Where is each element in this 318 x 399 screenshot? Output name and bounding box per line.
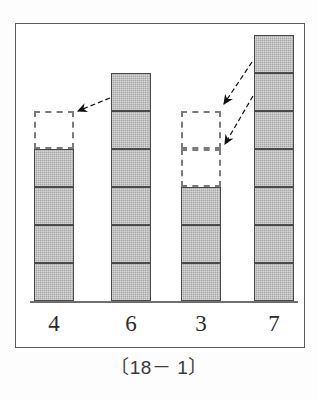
bar-1-dashed-segment-1 xyxy=(34,111,74,149)
bar-3-filled-segment-2 xyxy=(181,225,221,263)
bar-3-filled-segment-3 xyxy=(181,187,221,225)
bar-4-filled-segment-6 xyxy=(254,73,294,111)
bar-2-filled-segment-2 xyxy=(111,225,151,263)
figure-frame: 4 6 3 7 xyxy=(15,23,305,348)
bar-4-filled-segment-1 xyxy=(254,263,294,301)
arrow-bar7-to-bar3-dashed-lower xyxy=(225,96,253,144)
bar-2-filled-segment-4 xyxy=(111,149,151,187)
bar-2-filled-segment-3 xyxy=(111,187,151,225)
bar-column-1[interactable] xyxy=(34,111,74,301)
bar-1-filled-segment-4 xyxy=(34,149,74,187)
figure-caption: 〔18－ 1〕 xyxy=(0,352,318,379)
bar-column-4[interactable] xyxy=(254,35,294,301)
bar-4-filled-segment-5 xyxy=(254,111,294,149)
bar-4-filled-segment-3 xyxy=(254,187,294,225)
bar-2-filled-segment-6 xyxy=(111,73,151,111)
caption-open-bracket: 〔 xyxy=(110,357,130,378)
category-label-4: 7 xyxy=(254,311,294,337)
bar-2-filled-segment-5 xyxy=(111,111,151,149)
arrow-bar7-to-bar3-dashed-upper xyxy=(224,62,252,104)
bar-3-filled-segment-1 xyxy=(181,263,221,301)
category-label-2: 6 xyxy=(111,311,151,337)
bar-1-filled-segment-3 xyxy=(34,187,74,225)
caption-text: 18－ 1 xyxy=(130,357,188,378)
category-label-1: 4 xyxy=(34,311,74,337)
bar-4-filled-segment-7 xyxy=(254,35,294,73)
caption-close-bracket: 〕 xyxy=(188,357,208,378)
figure-page: 4 6 3 7 〔18－ 1〕 xyxy=(0,0,318,399)
bar-4-filled-segment-2 xyxy=(254,225,294,263)
chart-baseline-axis xyxy=(30,301,298,303)
bar-1-filled-segment-1 xyxy=(34,263,74,301)
bar-3-dashed-segment-2 xyxy=(181,111,221,149)
chart-plot-area: 4 6 3 7 xyxy=(16,24,304,347)
arrow-bar6-to-bar4-dashed xyxy=(78,98,110,111)
bar-4-filled-segment-4 xyxy=(254,149,294,187)
category-label-3: 3 xyxy=(181,311,221,337)
bar-3-dashed-segment-1 xyxy=(181,149,221,187)
bar-2-filled-segment-1 xyxy=(111,263,151,301)
bar-column-2[interactable] xyxy=(111,73,151,301)
bar-1-filled-segment-2 xyxy=(34,225,74,263)
bar-column-3[interactable] xyxy=(181,111,221,301)
